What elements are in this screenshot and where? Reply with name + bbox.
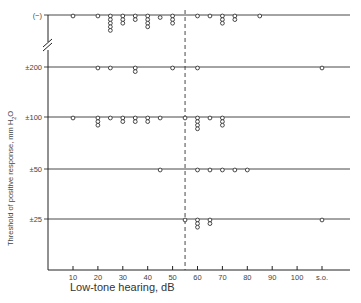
- data-point: [133, 18, 137, 22]
- data-point: [158, 116, 162, 120]
- data-point: [221, 168, 225, 172]
- y-tick-label: ±50: [30, 165, 42, 174]
- data-point: [171, 21, 175, 25]
- data-point: [146, 25, 150, 29]
- x-axis-title: Low-tone hearing, dB: [70, 281, 175, 293]
- y-tick-label: ±25: [30, 215, 42, 224]
- y-tick-label: (−): [33, 11, 43, 20]
- x-tick-label: 100: [291, 273, 304, 282]
- data-point: [196, 225, 200, 229]
- data-point: [108, 116, 112, 120]
- data-point: [208, 222, 212, 226]
- data-point: [146, 120, 150, 124]
- x-tick-label: 60: [193, 273, 201, 282]
- y-tick-label: ±100: [25, 113, 42, 122]
- data-point: [183, 218, 187, 222]
- data-point: [171, 66, 175, 70]
- axes: [43, 15, 350, 270]
- data-point: [121, 120, 125, 124]
- threshold-scatter-chart: (−)±200±100±50±25 102030405060708090100s…: [0, 0, 361, 303]
- data-point: [320, 218, 324, 222]
- data-point: [196, 127, 200, 131]
- data-point: [96, 14, 100, 18]
- data-point: [133, 120, 137, 124]
- data-point: [221, 21, 225, 25]
- data-point: [158, 16, 162, 20]
- data-points: [71, 14, 324, 229]
- data-point: [108, 66, 112, 70]
- y-axis-title-tail: O: [6, 111, 15, 117]
- data-point: [196, 14, 200, 18]
- data-point: [208, 116, 212, 120]
- data-point: [71, 116, 75, 120]
- data-point: [133, 70, 137, 74]
- data-point: [245, 168, 249, 172]
- axis-break-mark-2: [43, 43, 52, 51]
- data-point: [208, 14, 212, 18]
- y-tick-label: ±200: [25, 63, 42, 72]
- data-point: [158, 168, 162, 172]
- data-point: [121, 21, 125, 25]
- data-point: [96, 66, 100, 70]
- data-point: [196, 66, 200, 70]
- data-point: [320, 66, 324, 70]
- data-point: [196, 168, 200, 172]
- x-ticks: 102030405060708090100s.o.: [69, 266, 328, 282]
- y-axis-title: Threshold of positive response, mm H2O: [6, 111, 17, 246]
- data-point: [183, 116, 187, 120]
- data-point: [71, 14, 75, 18]
- data-point: [221, 123, 225, 127]
- x-tick-label: 70: [218, 273, 226, 282]
- data-point: [108, 29, 112, 33]
- data-point: [208, 168, 212, 172]
- x-tick-label: 90: [268, 273, 276, 282]
- data-point: [233, 168, 237, 172]
- y-axis-title-main: Threshold of positive response, mm H: [6, 120, 15, 246]
- x-tick-label: s.o.: [316, 273, 328, 282]
- data-point: [258, 14, 262, 18]
- data-point: [96, 123, 100, 127]
- data-point: [233, 18, 237, 22]
- x-tick-label: 80: [243, 273, 251, 282]
